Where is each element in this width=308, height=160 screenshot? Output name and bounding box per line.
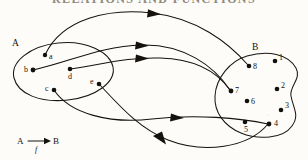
arrow-c-to-4-head xyxy=(170,113,184,121)
node-3-label: 3 xyxy=(285,101,289,110)
node-3 xyxy=(279,108,284,113)
arrow-b-to-7-head xyxy=(135,42,149,50)
arrow-a-to-8-head xyxy=(147,9,161,17)
set-b-label: B xyxy=(252,42,258,52)
arrow-c-to-4-path xyxy=(54,90,268,124)
set-a-elements: a b c d e xyxy=(24,52,101,93)
node-c-label: c xyxy=(45,84,49,93)
node-b-label: b xyxy=(24,65,28,74)
legend-codomain-label: B xyxy=(53,136,59,146)
node-7 xyxy=(229,89,234,94)
arrow-c-to-4 xyxy=(54,90,268,124)
node-e-label: e xyxy=(90,77,94,86)
node-d xyxy=(68,67,73,72)
set-a-label: A xyxy=(12,38,19,48)
legend-arrow-head xyxy=(44,138,51,144)
arrow-e-to-4 xyxy=(99,84,268,147)
node-a-label: a xyxy=(49,52,53,61)
node-b xyxy=(31,68,36,73)
node-6-label: 6 xyxy=(251,97,255,106)
node-5-label: 5 xyxy=(244,125,248,134)
legend-function-notation: A B f xyxy=(17,136,59,154)
node-4-label: 4 xyxy=(274,119,278,128)
arrow-a-to-8 xyxy=(45,9,248,65)
arrow-d-to-7 xyxy=(70,55,230,90)
node-d-label: d xyxy=(68,72,72,81)
legend-function-name: f xyxy=(35,145,39,154)
node-1-label: 1 xyxy=(279,53,283,62)
node-4 xyxy=(267,122,272,127)
arrow-a-to-8-path xyxy=(45,12,248,65)
node-2-label: 2 xyxy=(281,81,285,90)
node-8 xyxy=(247,64,252,69)
node-8-label: 8 xyxy=(253,62,257,71)
node-6 xyxy=(245,99,250,104)
arrow-d-to-7-head xyxy=(135,55,149,63)
arrow-b-to-7-path xyxy=(33,45,230,90)
mapping-diagram: A B a b c d e 1 xyxy=(0,0,308,160)
node-c xyxy=(52,88,57,93)
node-7-label: 7 xyxy=(235,86,239,95)
legend-domain-label: A xyxy=(17,136,24,146)
node-1 xyxy=(273,59,278,64)
node-e xyxy=(97,82,102,87)
arrow-d-to-7-path xyxy=(70,58,230,90)
node-5 xyxy=(243,120,248,125)
node-2 xyxy=(275,87,280,92)
arrow-e-to-4-path xyxy=(99,84,268,147)
node-a xyxy=(43,53,47,57)
